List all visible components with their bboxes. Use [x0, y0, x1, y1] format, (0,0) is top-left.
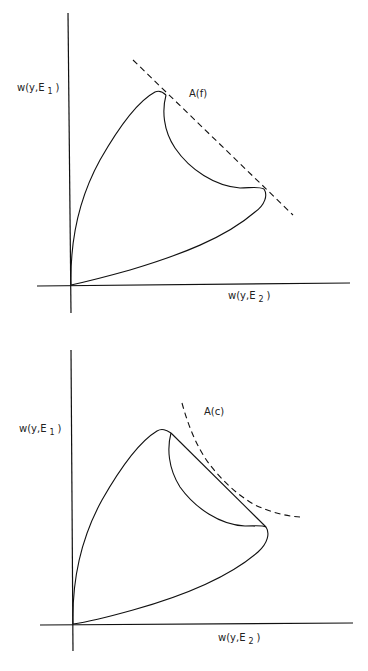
frontier-left — [73, 430, 171, 624]
figure-bottom: w(y,E1) w(y,E2) A(c) — [19, 350, 353, 651]
x-axis — [40, 623, 353, 625]
y-axis — [68, 13, 71, 313]
figure-top: w(y,E1) w(y,E2) A(f) — [17, 13, 350, 313]
frontier-left — [71, 91, 166, 285]
support-curve — [182, 403, 300, 517]
x-axis-label: w(y,E2) — [218, 632, 261, 646]
support-line — [133, 60, 293, 215]
frontier-concave — [164, 95, 264, 189]
y-axis-label: w(y,E1) — [17, 82, 60, 96]
frontier-lower — [73, 527, 268, 624]
support-label: A(c) — [204, 406, 224, 417]
diagram-canvas: w(y,E1) w(y,E2) A(f) w(y,E1) w(y,E2) A(c… — [0, 0, 368, 671]
x-axis — [37, 283, 350, 286]
frontier-chord — [171, 433, 266, 527]
support-label: A(f) — [189, 88, 207, 99]
y-axis-label: w(y,E1) — [19, 423, 62, 437]
frontier-lower — [71, 189, 266, 285]
x-axis-label: w(y,E2) — [228, 290, 271, 304]
